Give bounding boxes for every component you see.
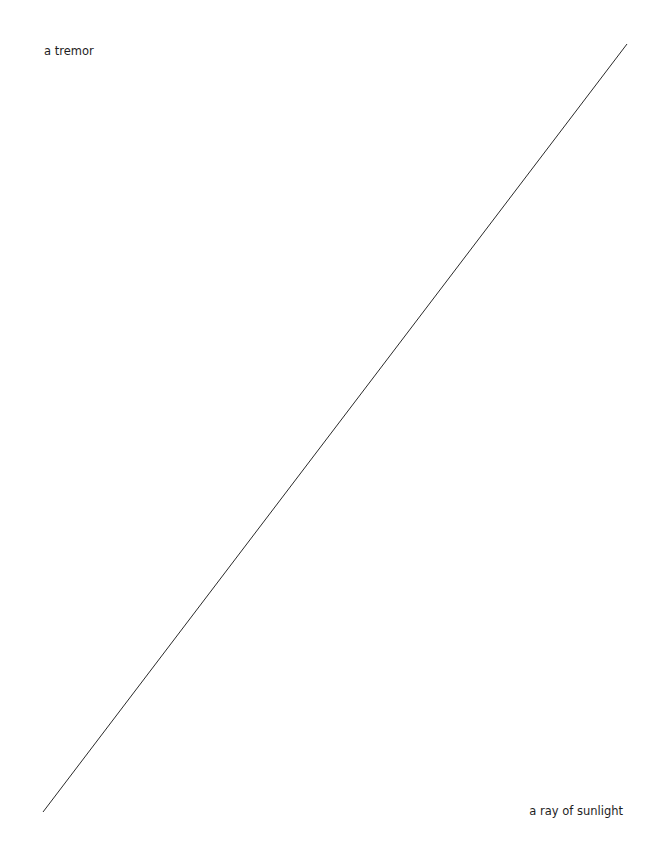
label-top-left: a tremor <box>44 44 94 58</box>
diagonal-line <box>43 44 627 812</box>
label-bottom-right: a ray of sunlight <box>529 804 623 818</box>
diagonal-line-canvas <box>0 0 655 861</box>
